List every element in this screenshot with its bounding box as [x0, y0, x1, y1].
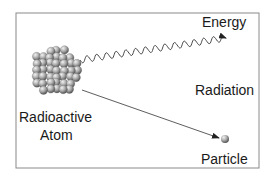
atom-label-line2: Atom — [40, 127, 73, 143]
atom-label-line1: Radioactive — [19, 109, 92, 125]
energy-label: Energy — [202, 14, 246, 30]
nucleus-cluster-icon — [32, 46, 82, 95]
radiation-diagram: Energy Radiation Radioactive Atom Partic… — [0, 0, 273, 178]
radiation-label: Radiation — [195, 82, 254, 98]
energy-wavy-arrow-icon — [80, 37, 226, 63]
particle-label: Particle — [201, 151, 248, 167]
particle-sphere-icon — [221, 135, 229, 143]
